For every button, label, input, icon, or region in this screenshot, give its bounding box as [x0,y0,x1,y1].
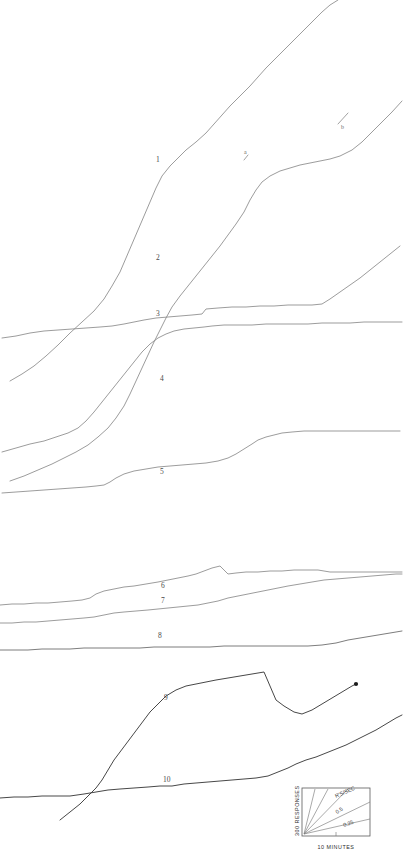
curve-label-6: 6 [161,581,165,590]
cumulative-record-plot: 12345678910 ab R'S/SEC 0.50.25 300 RESPO… [0,0,403,859]
curve-label-3: 3 [156,309,160,318]
legend-x-axis-label: 10 MINUTES [318,844,355,850]
curve-9-endpoint-dot [354,682,358,686]
curve-label-9: 9 [164,693,168,702]
curve-label-7: 7 [161,596,165,605]
curve-label-8: 8 [158,631,162,640]
curve-label-5: 5 [160,467,164,476]
curve-label-4: 4 [160,374,164,383]
curve-label-10: 10 [163,775,171,784]
legend-y-axis-label: 300 RESPONSES [294,785,300,836]
cumulative-record-figure: 12345678910 ab R'S/SEC 0.50.25 300 RESPO… [0,0,403,859]
curve-label-2: 2 [156,253,160,262]
curve-label-1: 1 [156,155,160,164]
endpoint-group [354,682,358,686]
segment-mark-b: b [341,124,344,130]
segment-mark-a: a [244,149,247,155]
